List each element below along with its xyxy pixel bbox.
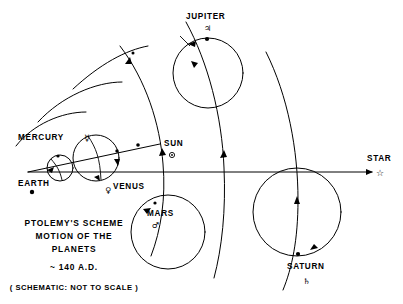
epicycle-jupiter-tick [180,36,190,46]
deferent-radius-line-inner [28,144,160,172]
mars-group: MARS ♂ [147,209,174,230]
epicycle-saturn-group [253,168,341,256]
epicycle-mercury-group [47,154,73,181]
deferent-arc-venus [38,82,122,122]
epicycle-jupiter-group [173,36,243,108]
venus-symbol: ♀ [105,186,111,195]
sun-symbol-dot [171,154,173,156]
motion-arrow-venus-right [114,159,120,166]
caption-line-3: PLANETS [52,244,97,254]
caption-block: PTOLEMY'S SCHEME MOTION OF THE PLANETS ~… [10,218,138,292]
mercury-symbol: ☿ [84,133,90,143]
deferent-node-sun [132,52,135,55]
star-group: STAR ☆ [367,154,391,178]
caption-line-2: MOTION OF THE [36,231,113,241]
planet-dot-saturn [296,252,300,256]
mercury-label: MERCURY [18,133,64,142]
epicycle-mercury [47,155,73,181]
motion-arrow-jupiter-radial [191,61,198,68]
deferent-arrow-mars [159,148,166,156]
ptolemaic-scheme-figure: EARTH SUN MERCURY ☿ ♀ VENUS MARS ♂ JUPIT… [0,0,403,304]
mercury-group: MERCURY ☿ [18,133,90,143]
caption-line-4: ~ 140 A.D. [50,262,98,272]
motion-arrow-saturn [310,244,318,250]
mars-label: MARS [147,209,174,218]
deferent-node-sun-line [136,143,140,147]
epicycle-saturn [253,168,341,256]
saturn-symbol: ♄ [303,277,310,286]
earth-label: EARTH [18,179,50,188]
planet-dot-jupiter [205,37,209,41]
epicycle-venus-group [73,135,120,181]
venus-label: VENUS [113,182,145,191]
earth-group: EARTH [18,179,50,194]
epicycle-mars [131,195,205,269]
motion-arrow-venus-bottom [94,175,100,181]
sun-label: SUN [164,139,183,148]
motion-arrow-saturn-radial [294,196,300,204]
saturn-label: SATURN [287,262,325,271]
deferent-arrow-jupiter [220,150,227,158]
earth-dot [30,190,34,194]
planet-dot-mercury [56,154,59,157]
deferent-arc-jupiter [186,22,225,278]
star-label: STAR [367,154,391,163]
mars-symbol: ♂ [152,221,159,230]
sun-group: SUN [164,139,183,158]
saturn-group: SATURN ♄ [287,262,325,286]
caption-line-1: PTOLEMY'S SCHEME [25,218,124,228]
venus-group: ♀ VENUS [105,182,145,195]
epicycle-mars-group [131,195,205,269]
ptolemaic-system-diagram: EARTH SUN MERCURY ☿ ♀ VENUS MARS ♂ JUPIT… [0,0,403,304]
planet-dot-venus [115,149,118,152]
caption-note: ( SCHEMATIC: NOT TO SCALE ) [10,283,138,292]
star-symbol: ☆ [376,168,384,178]
radius-line-earth-to-sun [28,144,160,172]
jupiter-group: JUPITER ♃ [186,12,225,33]
jupiter-symbol: ♃ [204,24,211,33]
jupiter-label: JUPITER [186,12,225,21]
planet-dot-mars [153,201,156,204]
